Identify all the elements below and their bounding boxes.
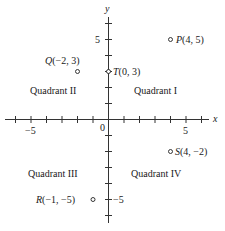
quadrant-labels: Quadrant I Quadrant II Quadrant III Quad… [28,85,182,179]
point-marker [91,198,95,202]
x-axis-label: x [212,113,218,124]
point-S: S(4, −2) [169,146,208,158]
quadrant-1-label: Quadrant I [134,85,177,96]
point-label: P(4, 5) [175,34,204,46]
point-label: Q(−2, 3) [45,55,80,67]
point-marker [107,70,111,74]
point-P: P(4, 5) [169,34,204,46]
point-R: R(−1, −5) [35,194,95,206]
coordinate-plane: x −5 5 0 y 5 −5 Quadrant I Quadrant II Q… [0,0,225,231]
point-marker [169,150,173,154]
y-tick-label-neg5: −5 [113,194,124,205]
origin-label: 0 [100,122,105,133]
point-label: S(4, −2) [175,146,207,158]
quadrant-3-label: Quadrant III [28,168,78,179]
x-axis: x −5 5 0 [5,113,218,136]
point-label: R(−1, −5) [35,194,75,206]
point-marker [169,38,173,42]
y-axis-label: y [104,3,110,14]
point-label: T(0, 3) [113,66,140,78]
x-tick-label-5: 5 [183,125,188,136]
quadrant-2-label: Quadrant II [30,85,76,96]
point-Q: Q(−2, 3) [45,55,80,74]
point-marker [76,70,80,74]
y-axis: y 5 −5 [95,3,124,223]
quadrant-4-label: Quadrant IV [131,168,182,179]
y-tick-label-5: 5 [95,34,100,45]
x-tick-label-neg5: −5 [25,125,36,136]
